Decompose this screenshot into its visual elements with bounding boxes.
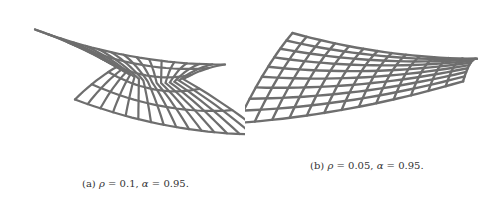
saddle-surface-plot-b [245,0,489,150]
caption-b: (b) ρ = 0.05, α = 0.95. [310,160,424,171]
caption-a: (a) ρ = 0.1, α = 0.95. [82,178,189,189]
saddle-surface-plot-a [0,0,245,165]
figure-a: (a) ρ = 0.1, α = 0.95. [0,0,245,197]
figure-b: (b) ρ = 0.05, α = 0.95. [245,0,489,197]
